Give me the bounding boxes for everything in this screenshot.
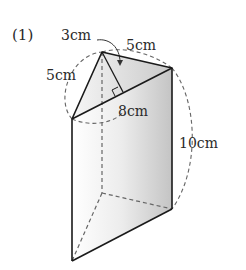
label-5cm-left: 5cm (46, 67, 76, 83)
problem-number: (1) (12, 26, 33, 44)
label-5cm-right: 5cm (126, 37, 156, 53)
label-8cm: 8cm (118, 103, 148, 119)
label-3cm: 3cm (61, 27, 91, 43)
prism-diagram: (1) 3cm 5cm 5cm 8cm 10cm (0, 0, 246, 270)
label-10cm: 10cm (179, 135, 218, 151)
